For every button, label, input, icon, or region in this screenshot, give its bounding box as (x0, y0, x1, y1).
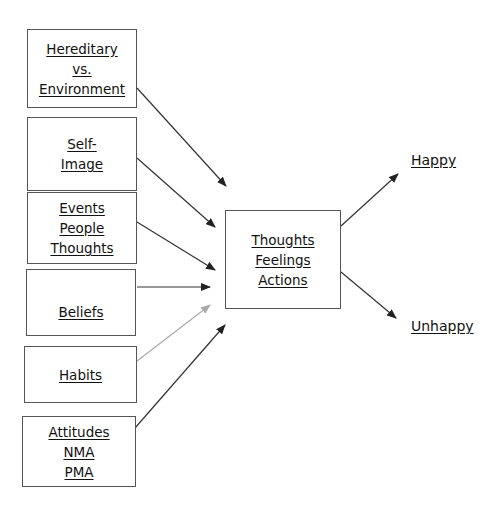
label: Thoughts (50, 238, 113, 258)
box-beliefs: Beliefs (26, 269, 136, 336)
label: Events (59, 198, 105, 218)
label: Habits (59, 365, 102, 385)
arrow-hereditary (137, 88, 226, 186)
box-hereditary: Hereditary vs. Environment (27, 29, 137, 108)
arrow-self-image (137, 158, 215, 227)
label: NMA (64, 442, 95, 462)
label: Environment (39, 79, 125, 99)
label: Self- (67, 134, 97, 154)
arrow-events (137, 222, 215, 270)
label: Thoughts (251, 230, 314, 250)
label: Actions (258, 270, 307, 290)
label: People (60, 218, 105, 238)
label: vs. (72, 59, 91, 79)
outcome-unhappy: Unhappy (411, 318, 474, 334)
arrow-habits (137, 305, 210, 361)
arrow-happy (341, 174, 398, 226)
label: PMA (64, 462, 93, 482)
label: Image (61, 154, 103, 174)
label: Feelings (255, 250, 310, 270)
label: Hereditary (46, 39, 117, 59)
box-habits: Habits (24, 346, 137, 403)
label: Beliefs (58, 302, 103, 322)
arrow-attitudes (135, 325, 225, 428)
box-attitudes: Attitudes NMA PMA (22, 416, 136, 487)
box-center: Thoughts Feelings Actions (225, 210, 341, 309)
arrow-unhappy (341, 272, 396, 318)
label: Attitudes (48, 422, 109, 442)
box-self-image: Self- Image (27, 117, 137, 191)
outcome-happy: Happy (411, 152, 456, 168)
box-events: Events People Thoughts (27, 192, 137, 264)
